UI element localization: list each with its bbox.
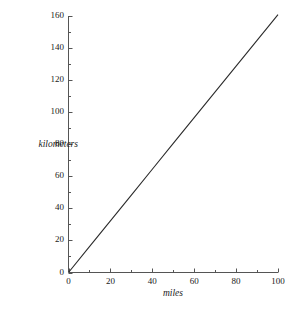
series-line — [69, 15, 279, 273]
y-tick-label: 160 — [28, 11, 64, 20]
x-tick-label: 80 — [221, 277, 251, 286]
x-tick-label: 60 — [179, 277, 209, 286]
data-series-group — [69, 15, 279, 273]
y-tick-label: 60 — [28, 171, 64, 180]
x-axis-title: miles — [143, 288, 203, 298]
y-tick-label: 20 — [28, 235, 64, 244]
y-tick-label: 40 — [28, 203, 64, 212]
y-tick-label: 100 — [28, 107, 64, 116]
x-tick-label: 20 — [95, 277, 125, 286]
x-axis-ticks — [70, 269, 279, 273]
y-tick-label: 0 — [28, 268, 64, 277]
line-chart: 020406080100120140160 020406080100 kilom… — [0, 0, 303, 310]
x-tick-label: 0 — [54, 277, 84, 286]
x-tick-label: 40 — [137, 277, 167, 286]
x-tick-label: 100 — [263, 277, 293, 286]
y-axis-title: kilometers — [12, 139, 78, 149]
y-tick-label: 140 — [28, 43, 64, 52]
y-tick-label: 120 — [28, 75, 64, 84]
